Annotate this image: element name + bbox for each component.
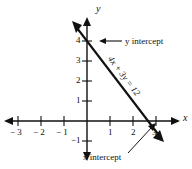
- y-tick-label-2: 2: [76, 76, 81, 85]
- y-intercept-annotation-text: intercept: [130, 36, 164, 46]
- y-axis-top-arrowhead: [83, 17, 91, 26]
- x-axis-left-arrowhead: [4, 117, 13, 125]
- x-intercept-annotation-text: intercept: [88, 152, 122, 162]
- y-axis-label: y: [96, 4, 100, 14]
- x-axis-right-arrowhead: [171, 117, 180, 125]
- y-tick-label-4: 4: [76, 36, 81, 45]
- x-tick-label--3: − 3: [10, 128, 22, 137]
- y-intercept-annotation: y intercept: [125, 36, 163, 46]
- x-tick-label--2: − 2: [33, 128, 45, 137]
- x-tick-label-2: 2: [131, 128, 136, 137]
- x-tick-label--1: − 1: [56, 128, 68, 137]
- x-tick-label-3: 3: [152, 128, 157, 137]
- y-tick-label-1: 1: [76, 96, 81, 105]
- y-intercept-pointer-head: [99, 38, 106, 44]
- graph-canvas: [0, 0, 192, 169]
- y-tick-label--1: −1: [71, 136, 81, 145]
- x-intercept-annotation: x intercept: [83, 152, 121, 162]
- x-axis-label: x: [183, 113, 187, 123]
- line-graph-figure: y x − 3 − 2 − 1 1 2 3 4 3 2 1 −1 4x + 3y…: [0, 0, 192, 169]
- x-tick-label-1: 1: [108, 128, 113, 137]
- y-tick-label-3: 3: [76, 56, 81, 65]
